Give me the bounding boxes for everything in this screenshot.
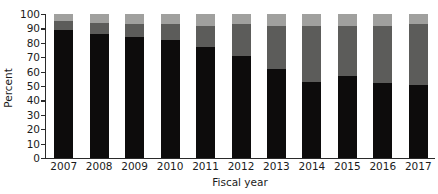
bar-segment[interactable] xyxy=(409,85,428,158)
y-axis-tick-label: 70 xyxy=(16,52,40,62)
bar[interactable] xyxy=(232,14,251,158)
y-axis-tick-label: 60 xyxy=(16,67,40,77)
y-axis-line xyxy=(45,14,46,158)
bar[interactable] xyxy=(125,14,144,158)
y-axis-title: Percent xyxy=(1,18,15,158)
x-axis-tick-label: 2017 xyxy=(398,160,438,172)
x-axis-tick-label: 2013 xyxy=(256,160,296,172)
y-axis-tick-mark xyxy=(41,72,45,73)
bar-segment[interactable] xyxy=(409,14,428,24)
bar-segment[interactable] xyxy=(125,37,144,158)
x-axis-title: Fiscal year xyxy=(45,176,435,188)
x-axis-tick-label: 2011 xyxy=(186,160,226,172)
x-axis-tick-label: 2007 xyxy=(44,160,84,172)
bar-segment[interactable] xyxy=(232,56,251,158)
y-axis-tick-label: 40 xyxy=(16,95,40,105)
bar-segment[interactable] xyxy=(373,26,392,84)
bar-segment[interactable] xyxy=(302,26,321,82)
bar-segment[interactable] xyxy=(267,26,286,69)
x-axis-tick-label: 2009 xyxy=(115,160,155,172)
x-axis-tick-label: 2015 xyxy=(327,160,367,172)
bar-segment[interactable] xyxy=(196,47,215,158)
y-axis-tick-label: 0 xyxy=(16,153,40,163)
x-axis-tick-label: 2016 xyxy=(363,160,403,172)
bar-segment[interactable] xyxy=(125,24,144,37)
bar[interactable] xyxy=(409,14,428,158)
bar[interactable] xyxy=(267,14,286,158)
x-axis-tick-label: 2010 xyxy=(150,160,190,172)
bar[interactable] xyxy=(302,14,321,158)
y-axis-tick-mark xyxy=(41,129,45,130)
bar[interactable] xyxy=(90,14,109,158)
bar-segment[interactable] xyxy=(196,26,215,48)
bar-segment[interactable] xyxy=(232,14,251,24)
y-axis-tick-label: 80 xyxy=(16,38,40,48)
y-axis-tick-mark xyxy=(41,57,45,58)
x-axis-tick-label: 2012 xyxy=(221,160,261,172)
y-axis-title-label: Percent xyxy=(2,68,14,108)
bar-segment[interactable] xyxy=(373,14,392,26)
bar-segment[interactable] xyxy=(302,82,321,158)
bar-segment[interactable] xyxy=(161,14,180,24)
bar-segment[interactable] xyxy=(125,14,144,24)
bar-segment[interactable] xyxy=(338,14,357,26)
y-axis-tick-mark xyxy=(41,43,45,44)
x-axis-tick-labels: 2007200820092010201120122013201420152016… xyxy=(45,160,435,174)
bar-segment[interactable] xyxy=(54,14,73,21)
stacked-bar-chart: Percent 0102030405060708090100 200720082… xyxy=(0,0,438,194)
y-axis-tick-mark xyxy=(41,28,45,29)
y-axis-tick-mark xyxy=(41,115,45,116)
bar-segment[interactable] xyxy=(90,23,109,35)
y-axis-tick-label: 30 xyxy=(16,110,40,120)
x-axis-tick-label: 2014 xyxy=(292,160,332,172)
bar[interactable] xyxy=(338,14,357,158)
bar[interactable] xyxy=(54,14,73,158)
bar-segment[interactable] xyxy=(90,34,109,158)
bar-segment[interactable] xyxy=(373,83,392,158)
bar-segment[interactable] xyxy=(409,24,428,84)
bar-segment[interactable] xyxy=(196,14,215,26)
bar-segment[interactable] xyxy=(161,40,180,158)
y-axis-tick-mark xyxy=(41,86,45,87)
y-axis-tick-label: 100 xyxy=(16,9,40,19)
y-axis-tick-mark xyxy=(41,158,45,159)
y-axis-tick-mark xyxy=(41,14,45,15)
bar-segment[interactable] xyxy=(161,24,180,40)
bar-segment[interactable] xyxy=(302,14,321,26)
bar[interactable] xyxy=(373,14,392,158)
bar[interactable] xyxy=(161,14,180,158)
bar-segment[interactable] xyxy=(232,24,251,56)
x-axis-tick-label: 2008 xyxy=(79,160,119,172)
bar-segment[interactable] xyxy=(338,76,357,158)
y-axis-tick-mark xyxy=(41,144,45,145)
bar[interactable] xyxy=(196,14,215,158)
bar-segment[interactable] xyxy=(267,69,286,158)
bar-segment[interactable] xyxy=(90,14,109,23)
plot-area xyxy=(45,14,435,158)
bar-segment[interactable] xyxy=(338,26,357,76)
y-axis-tick-label: 90 xyxy=(16,23,40,33)
y-axis-tick-mark xyxy=(41,100,45,101)
y-axis-tick-label: 10 xyxy=(16,139,40,149)
bar-segment[interactable] xyxy=(54,21,73,30)
y-axis-tick-label: 50 xyxy=(16,81,40,91)
y-axis-tick-label: 20 xyxy=(16,124,40,134)
bar-segment[interactable] xyxy=(267,14,286,26)
bar-segment[interactable] xyxy=(54,30,73,158)
y-axis-tick-labels: 0102030405060708090100 xyxy=(14,0,40,194)
